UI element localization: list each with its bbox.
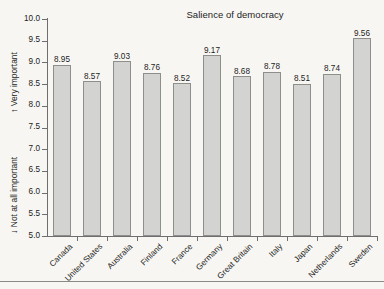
bar-value-label: 8.57: [84, 72, 100, 81]
bar-value-label: 9.17: [204, 46, 220, 55]
y-axis-tick-label: 8.0: [29, 100, 40, 109]
x-axis-label: Netherlands: [338, 242, 344, 248]
bar-value-label: 8.52: [174, 74, 190, 83]
y-axis-tick: 5.0: [42, 236, 47, 237]
x-axis-label: Great Britain: [248, 242, 254, 248]
x-axis-label-text: Australia: [105, 242, 134, 271]
bottom-divider: [0, 281, 384, 282]
y-axis-tick: 8.5: [42, 84, 47, 85]
bar: 8.51: [293, 84, 311, 236]
x-axis-tick: [227, 237, 228, 241]
bar: 9.56: [353, 38, 371, 236]
bar-value-label: 8.76: [144, 63, 160, 72]
y-axis-tick: 7.0: [42, 149, 47, 150]
bar-value-label: 8.74: [324, 64, 340, 73]
y-axis-caption-low: ↓ Not at all important: [9, 157, 19, 234]
x-axis-label: Australia: [128, 242, 134, 248]
bar-value-label: 8.95: [54, 55, 70, 64]
down-arrow-icon: ↓: [9, 230, 19, 235]
x-axis-label-text: Finland: [139, 242, 164, 267]
y-axis-tick-label: 8.5: [29, 79, 40, 88]
x-axis-label: United States: [98, 242, 104, 248]
bar: 8.57: [83, 81, 101, 236]
x-axis-label-text: Japan: [292, 242, 314, 264]
bar: 8.76: [143, 73, 161, 236]
bar: 8.74: [323, 74, 341, 236]
y-axis-tick: 6.5: [42, 171, 47, 172]
y-axis-caption-low-label: Not at all important: [9, 157, 19, 227]
y-axis-caption-high-label: Very important: [9, 52, 19, 106]
bar: 8.52: [173, 83, 191, 236]
x-axis-tick: [167, 237, 168, 241]
y-axis-tick: 10.0: [42, 19, 47, 20]
y-axis-line: [47, 18, 48, 237]
bar-value-label: 8.78: [264, 62, 280, 71]
bar: 8.68: [233, 76, 251, 236]
x-axis-label-text: Canada: [48, 242, 75, 269]
y-axis-tick: 7.5: [42, 128, 47, 129]
bar: 8.95: [53, 65, 71, 236]
y-axis-tick-label: 9.0: [29, 57, 40, 66]
x-axis-label: Japan: [308, 242, 314, 248]
y-axis-tick-label: 5.5: [29, 209, 40, 218]
x-axis-tick: [347, 237, 348, 241]
bar-value-label: 9.03: [114, 52, 130, 61]
y-axis-tick-label: 6.0: [29, 187, 40, 196]
y-axis-tick-label: 9.5: [29, 35, 40, 44]
x-axis-label-text: France: [170, 242, 194, 266]
chart-title: Salience of democracy: [150, 9, 320, 20]
y-axis-tick-label: 7.5: [29, 122, 40, 131]
x-axis-tick: [77, 237, 78, 241]
x-axis-tick: [197, 237, 198, 241]
bar-value-label: 9.56: [354, 29, 370, 38]
x-axis-label-text: Italy: [267, 242, 284, 259]
x-axis-tick: [137, 237, 138, 241]
bar: 8.78: [263, 72, 281, 236]
x-axis-tick: [287, 237, 288, 241]
y-axis-tick-label: 10.0: [24, 14, 40, 23]
x-axis-label: Canada: [68, 242, 74, 248]
y-axis-tick-label: 6.5: [29, 165, 40, 174]
y-axis-tick: 6.0: [42, 193, 47, 194]
bar-value-label: 8.51: [294, 74, 310, 83]
y-axis-tick: 5.5: [42, 214, 47, 215]
x-axis-label: Finland: [158, 242, 164, 248]
bar: 9.03: [113, 61, 131, 236]
figure-canvas: Salience of democracy ↑ Very important ↓…: [0, 0, 384, 289]
x-axis-label: Italy: [278, 242, 284, 248]
x-axis-label-text: Germany: [194, 242, 224, 272]
up-arrow-icon: ↑: [9, 109, 19, 114]
y-axis-tick: 8.0: [42, 106, 47, 107]
y-axis-tick-label: 5.0: [29, 231, 40, 240]
x-axis-tick: [377, 237, 378, 241]
x-axis-tick: [107, 237, 108, 241]
x-axis-label-text: Sweden: [347, 242, 374, 269]
bar-value-label: 8.68: [234, 67, 250, 76]
x-axis-tick: [317, 237, 318, 241]
y-axis-tick: 9.5: [42, 41, 47, 42]
bar: 9.17: [203, 55, 221, 236]
x-axis-tick: [257, 237, 258, 241]
y-axis-caption-high: ↑ Very important: [9, 52, 19, 113]
y-axis-tick: 9.0: [42, 62, 47, 63]
x-axis-label: Germany: [218, 242, 224, 248]
x-axis-label: Sweden: [368, 242, 374, 248]
y-axis-tick-label: 7.0: [29, 144, 40, 153]
x-axis-label: France: [188, 242, 194, 248]
x-axis-line: [47, 236, 378, 237]
